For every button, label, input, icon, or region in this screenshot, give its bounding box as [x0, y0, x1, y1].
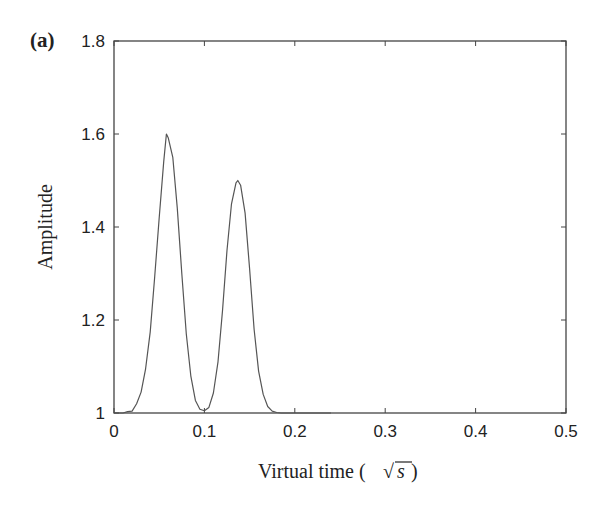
amplitude-series-line — [114, 134, 331, 413]
svg-text:Virtual time (: Virtual time ( — [258, 460, 366, 483]
y-tick-label: 1.2 — [81, 311, 105, 330]
x-tick-label: 0.1 — [193, 422, 217, 441]
y-axis-tick-labels: 11.21.41.61.8 — [81, 32, 105, 423]
x-tick-label: 0.5 — [554, 422, 578, 441]
y-tick-label: 1.8 — [81, 32, 105, 51]
svg-text:√: √ — [383, 460, 394, 482]
x-tick-label: 0.3 — [373, 422, 397, 441]
radical-symbol: √ — [383, 460, 394, 482]
x-axis-title-text: Virtual time ( — [258, 460, 366, 483]
x-tick-label: 0.2 — [283, 422, 307, 441]
close-paren: ) — [411, 460, 418, 483]
y-axis-title: Amplitude — [34, 184, 57, 270]
axis-ticks — [114, 41, 566, 413]
y-tick-label: 1 — [96, 404, 105, 423]
svg-text:s: s — [397, 460, 405, 482]
y-tick-label: 1.6 — [81, 125, 105, 144]
x-axis-tick-labels: 00.10.20.30.40.5 — [109, 422, 578, 441]
y-tick-label: 1.4 — [81, 218, 105, 237]
x-tick-label: 0.4 — [464, 422, 488, 441]
x-tick-label: 0 — [109, 422, 118, 441]
x-axis-title: Virtual time ( √ s ) — [258, 460, 418, 483]
plot-area-frame — [114, 41, 566, 413]
radicand: s — [397, 460, 405, 482]
svg-text:): ) — [411, 460, 418, 483]
line-chart: 11.21.41.61.8 00.10.20.30.40.5 Amplitude… — [0, 0, 605, 523]
